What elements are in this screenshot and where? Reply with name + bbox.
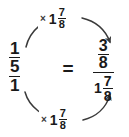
bottom-operand-numerator: 7 [59,108,67,119]
left-complex-fraction: 1 5 1 [8,40,21,94]
multiply-icon: × [41,114,47,125]
bottom-operand-fraction: 7 8 [59,108,67,131]
bottom-operand-whole: 1 [50,112,58,128]
left-numerator: 1 5 [8,40,21,76]
left-inner-numerator: 1 [9,40,20,57]
right-fraction-denominator: 8 [103,88,113,103]
left-denominator: 1 [9,76,20,94]
equals-sign: = [58,58,78,80]
right-mixed-number: 1 7 8 [94,74,113,104]
right-numerator: 3 8 [97,38,110,72]
top-operand-fraction: 7 8 [58,7,66,30]
bottom-operand-denominator: 8 [59,119,67,131]
top-operand-numerator: 7 [58,7,66,18]
right-complex-fraction: 3 8 1 7 8 [93,38,114,103]
right-inner-fraction: 3 8 [98,38,109,72]
bottom-arc-label: × 1 7 8 [39,108,69,131]
top-operand-denominator: 8 [58,18,66,30]
right-whole-part: 1 [94,81,102,95]
top-operand-whole: 1 [49,11,57,27]
right-fraction-part: 7 8 [103,74,113,104]
fraction-scaling-diagram: 1 5 1 = 3 8 1 7 8 × 1 7 [0,0,129,137]
multiply-icon: × [40,13,46,24]
top-arc-label: × 1 7 8 [38,7,68,30]
right-denominator: 1 7 8 [93,72,114,104]
left-inner-denominator: 5 [9,57,20,75]
left-inner-fraction: 1 5 [9,40,20,76]
right-inner-numerator: 3 [98,38,109,54]
right-fraction-numerator: 7 [103,74,113,88]
right-inner-denominator: 8 [98,54,109,71]
